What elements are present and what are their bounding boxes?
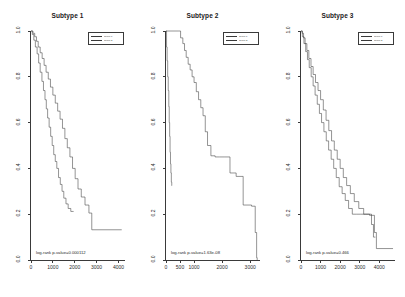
x-tick-mark: [74, 260, 75, 263]
legend-label: group 2: [374, 39, 382, 42]
survival-figure: Subtype 1 group 1 group 2 0.00.20.40.60.…: [0, 0, 405, 297]
survival-curve: [166, 31, 172, 186]
survival-curve: [31, 31, 122, 230]
y-tick-label: 0.2: [15, 206, 21, 220]
panel-title: Subtype 3: [270, 12, 405, 19]
x-tick-mark: [31, 260, 32, 263]
legend-labels: group 1 group 2: [374, 35, 383, 42]
pvalue-annotation: log-rank p-value=1.63e-08: [171, 250, 220, 255]
y-tick-label: 0.6: [285, 115, 291, 129]
x-tick-mark: [340, 260, 341, 263]
legend-labels: group 1 group 2: [239, 35, 248, 42]
legend: group 1 group 2: [358, 32, 394, 45]
legend-line-samples: [361, 36, 372, 41]
plot-area: group 1 group 2 0.00.20.40.60.81.0010002…: [300, 31, 395, 261]
x-tick-label: 2000: [210, 264, 234, 270]
legend: group 1 group 2: [223, 32, 259, 45]
survival-curves: [166, 31, 260, 260]
y-tick-label: 0.8: [15, 69, 21, 83]
survival-curves: [31, 31, 125, 260]
y-tick-label: 1.0: [150, 23, 156, 37]
y-tick-mark: [298, 31, 301, 32]
x-tick-label: 0: [19, 264, 43, 270]
legend-label: group 1: [239, 35, 247, 38]
y-tick-label: 0.4: [15, 160, 21, 174]
legend-line-icon: [361, 40, 372, 41]
panel-subtype-1: Subtype 1 group 1 group 2 0.00.20.40.60.…: [0, 0, 135, 297]
y-tick-mark: [298, 214, 301, 215]
x-tick-mark: [250, 260, 251, 263]
plot-area: group 1 group 2 0.00.20.40.60.81.0050010…: [165, 31, 260, 261]
y-tick-mark: [163, 168, 166, 169]
legend-line-icon: [361, 36, 372, 37]
y-tick-mark: [28, 168, 31, 169]
y-tick-mark: [28, 122, 31, 123]
survival-curve: [301, 31, 375, 237]
y-tick-mark: [163, 31, 166, 32]
x-tick-mark: [320, 260, 321, 263]
pvalue-annotation: log-rank p-value=0.000112: [36, 250, 86, 255]
y-tick-label: 0.8: [285, 69, 291, 83]
panel-title: Subtype 2: [135, 12, 270, 19]
x-tick-label: 1000: [41, 264, 65, 270]
legend-line-icon: [226, 36, 237, 37]
survival-curve: [166, 31, 257, 260]
y-tick-mark: [163, 214, 166, 215]
legend-line-samples: [226, 36, 237, 41]
survival-curve: [31, 31, 74, 211]
y-tick-mark: [28, 76, 31, 77]
y-tick-label: 0.4: [150, 160, 156, 174]
y-tick-label: 1.0: [15, 23, 21, 37]
y-tick-label: 0.6: [15, 115, 21, 129]
pvalue-annotation: log-rank p-value=0.466: [306, 250, 349, 255]
y-tick-label: 0.8: [150, 69, 156, 83]
x-tick-mark: [166, 260, 167, 263]
y-tick-mark: [298, 76, 301, 77]
x-tick-label: 1000: [182, 264, 206, 270]
x-tick-mark: [301, 260, 302, 263]
x-tick-label: 3000: [85, 264, 109, 270]
x-tick-mark: [118, 260, 119, 263]
survival-curve: [301, 31, 393, 249]
y-tick-mark: [298, 168, 301, 169]
y-tick-mark: [298, 122, 301, 123]
x-tick-label: 4000: [367, 264, 391, 270]
x-tick-mark: [96, 260, 97, 263]
legend-label: group 1: [104, 35, 112, 38]
x-tick-label: 3000: [238, 264, 262, 270]
panel-subtype-3: Subtype 3 group 1 group 2 0.00.20.40.60.…: [270, 0, 405, 297]
y-tick-label: 0.4: [285, 160, 291, 174]
legend-label: group 2: [239, 39, 247, 42]
x-tick-label: 2000: [63, 264, 87, 270]
legend-label: group 1: [374, 35, 382, 38]
legend-line-icon: [91, 36, 102, 37]
legend-labels: group 1 group 2: [104, 35, 113, 42]
y-tick-label: 0.2: [150, 206, 156, 220]
x-tick-mark: [194, 260, 195, 263]
y-tick-label: 0.6: [150, 115, 156, 129]
y-tick-mark: [28, 31, 31, 32]
panel-title: Subtype 1: [0, 12, 135, 19]
legend-line-icon: [91, 40, 102, 41]
y-tick-mark: [163, 122, 166, 123]
panel-subtype-2: Subtype 2 group 1 group 2 0.00.20.40.60.…: [135, 0, 270, 297]
legend-label: group 2: [104, 39, 112, 42]
plot-area: group 1 group 2 0.00.20.40.60.81.0010002…: [30, 31, 125, 261]
x-tick-mark: [180, 260, 181, 263]
legend-line-samples: [91, 36, 102, 41]
x-tick-label: 4000: [106, 264, 130, 270]
y-tick-label: 0.2: [285, 206, 291, 220]
x-tick-mark: [379, 260, 380, 263]
y-tick-label: 1.0: [285, 23, 291, 37]
y-tick-mark: [28, 214, 31, 215]
survival-curves: [301, 31, 395, 260]
legend: group 1 group 2: [88, 32, 124, 45]
x-tick-mark: [222, 260, 223, 263]
x-tick-mark: [359, 260, 360, 263]
legend-line-icon: [226, 40, 237, 41]
y-tick-mark: [163, 76, 166, 77]
x-tick-mark: [52, 260, 53, 263]
